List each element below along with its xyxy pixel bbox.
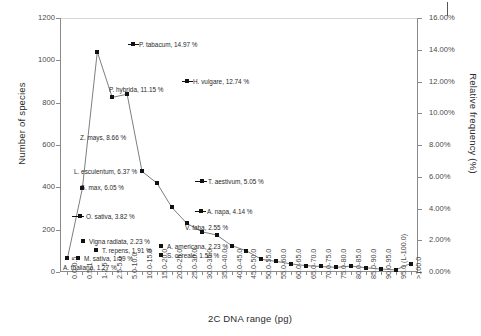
y-tick-label-left: 600 <box>0 140 55 149</box>
ann-msativa: M. sativa, 1.59 % <box>84 255 133 262</box>
data-point <box>65 256 69 260</box>
ann-bnapa: A. napa, 4.14 % <box>207 208 252 215</box>
y-tick-label-right: 16.00% <box>429 13 481 22</box>
y-tick-label-right: 2.00% <box>429 235 481 244</box>
data-point <box>215 233 219 237</box>
data-point <box>364 266 368 270</box>
y-tick-label-left: 0 <box>0 267 55 276</box>
data-point <box>274 259 278 263</box>
y-tick-label-left: 800 <box>0 98 55 107</box>
ann-ptabacum: P. tabacum, 14.97 % <box>139 41 198 48</box>
ann-trepens: T. repens, 1.91 % <box>102 247 152 254</box>
series-line <box>60 18 418 272</box>
ann-aamericana: A. americana, 2.23 % <box>167 243 228 250</box>
y-tick-label-right: 8.00% <box>429 140 481 149</box>
data-point <box>155 181 159 185</box>
y-tick-label-right: 10.00% <box>429 108 481 117</box>
ann-phybrida: P. hybrida, 11.15 % <box>109 86 163 93</box>
ann-hvulgare-leader <box>182 81 193 82</box>
data-point <box>349 264 353 268</box>
ann-vfaba: V. faba, 2.55 % <box>185 224 228 231</box>
data-point <box>170 205 174 209</box>
data-point <box>304 264 308 268</box>
ann-osativa: O. sativa, 3.82 % <box>86 213 135 220</box>
data-point <box>394 268 398 272</box>
ann-vignaradiata: Vigna radiata, 2.23 % <box>89 238 150 245</box>
ann-aamericana-marker <box>159 244 163 248</box>
y-tick-label-left: 400 <box>0 182 55 191</box>
figure-chart: Number of species Relative frequency (%)… <box>0 0 481 336</box>
y-tick-label-right: 6.00% <box>429 172 481 181</box>
ann-trepens-marker <box>94 248 98 252</box>
ann-vignaradiata-marker <box>81 239 85 243</box>
y-tick-label-left: 1000 <box>0 55 55 64</box>
ann-taestivum-leader <box>195 181 207 182</box>
y-axis-title-left: Number of species <box>16 59 27 189</box>
y-tick-label-right: 12.00% <box>429 77 481 86</box>
y-tick-label-right: 0.00% <box>429 267 481 276</box>
ann-taestivum: T. aestivum, 5.05 % <box>208 178 264 185</box>
ann-lesculentum: L. esculentum, 6.37 % <box>74 168 137 175</box>
ann-osativa-leader <box>72 216 84 217</box>
ann-scereale: S. cereale, 1.59 % <box>167 252 219 259</box>
plot-area: 020040060080010001200 0.00%2.00%4.00%6.0… <box>60 18 418 272</box>
ann-zmays: Z. mays, 8.66 % <box>80 134 126 141</box>
ann-ptabacum-leader <box>128 44 139 45</box>
ann-gmax: G. max, 6.05 % <box>80 184 124 191</box>
y-tick-left <box>56 272 60 273</box>
data-point <box>95 50 99 54</box>
data-point <box>244 249 248 253</box>
ann-bnapa-leader <box>195 211 206 212</box>
data-point <box>230 244 234 248</box>
y-tick-label-right: 4.00% <box>429 204 481 213</box>
ann-athaliana: A. thaliana, 1.27 % <box>63 264 117 271</box>
data-point <box>289 262 293 266</box>
y-tick-label-left: 1200 <box>0 13 55 22</box>
data-point <box>334 265 338 269</box>
data-point <box>259 257 263 261</box>
ann-hvulgare: H. vulgare, 12.74 % <box>193 78 249 85</box>
ann-msativa-marker <box>76 256 80 260</box>
ann-scereale-marker <box>159 253 163 257</box>
y-tick-label-left: 200 <box>0 225 55 234</box>
data-point <box>409 262 413 266</box>
data-point <box>140 169 144 173</box>
data-point <box>319 264 323 268</box>
data-point <box>110 95 114 99</box>
y-tick-label-right: 14.00% <box>429 45 481 54</box>
x-axis-title: 2C DNA range (pg) <box>150 313 350 324</box>
data-point <box>379 267 383 271</box>
